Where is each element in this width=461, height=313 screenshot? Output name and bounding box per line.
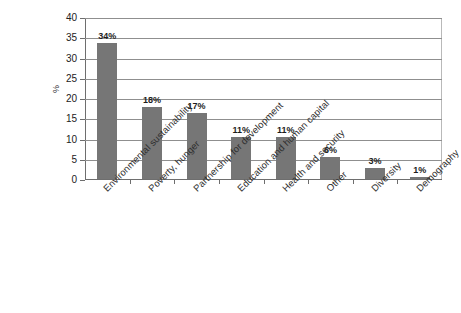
y-tick-label: 20 bbox=[66, 94, 77, 104]
bar-value-label: 18% bbox=[143, 96, 161, 105]
y-tick-label: 30 bbox=[66, 54, 77, 64]
gridline bbox=[85, 18, 442, 19]
gridline bbox=[85, 79, 442, 80]
x-tick-mark bbox=[264, 180, 265, 184]
gridline bbox=[85, 59, 442, 60]
y-tick-mark bbox=[80, 79, 85, 80]
x-tick-mark bbox=[130, 180, 131, 184]
y-tick-mark bbox=[80, 160, 85, 161]
y-tick-label: 10 bbox=[66, 135, 77, 145]
y-tick-label: 35 bbox=[66, 33, 77, 43]
y-tick-label: 0 bbox=[71, 175, 77, 185]
y-tick-label: 40 bbox=[66, 13, 77, 23]
y-tick-label: 25 bbox=[66, 74, 77, 84]
bar-value-label: 34% bbox=[98, 32, 116, 41]
gridline bbox=[85, 140, 442, 141]
y-tick-mark bbox=[80, 180, 85, 181]
y-tick-mark bbox=[80, 18, 85, 19]
x-tick-mark bbox=[308, 180, 309, 184]
y-tick-mark bbox=[80, 59, 85, 60]
y-tick-mark bbox=[80, 38, 85, 39]
y-tick-mark bbox=[80, 140, 85, 141]
y-tick-mark bbox=[80, 99, 85, 100]
y-tick-label: 5 bbox=[71, 155, 77, 165]
bar-value-label: 3% bbox=[369, 157, 382, 166]
y-tick-label: 15 bbox=[66, 114, 77, 124]
y-axis-title: % bbox=[51, 77, 61, 101]
x-tick-mark bbox=[353, 180, 354, 184]
x-tick-mark bbox=[397, 180, 398, 184]
gridline bbox=[85, 99, 442, 100]
y-tick-mark bbox=[80, 119, 85, 120]
gridline bbox=[85, 38, 442, 39]
x-tick-mark bbox=[219, 180, 220, 184]
bar[interactable] bbox=[97, 43, 117, 179]
x-tick-mark bbox=[174, 180, 175, 184]
